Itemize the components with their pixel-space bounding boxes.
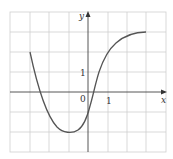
x-tick-label-1: 1: [106, 96, 112, 106]
origin-label: 0: [80, 94, 86, 104]
x-axis: [10, 90, 167, 95]
y-tick-label-1: 1: [80, 68, 86, 78]
y-axis-label: y: [78, 11, 85, 21]
function-graph: y x 0 1 1: [0, 0, 173, 159]
x-axis-label: x: [161, 95, 166, 105]
